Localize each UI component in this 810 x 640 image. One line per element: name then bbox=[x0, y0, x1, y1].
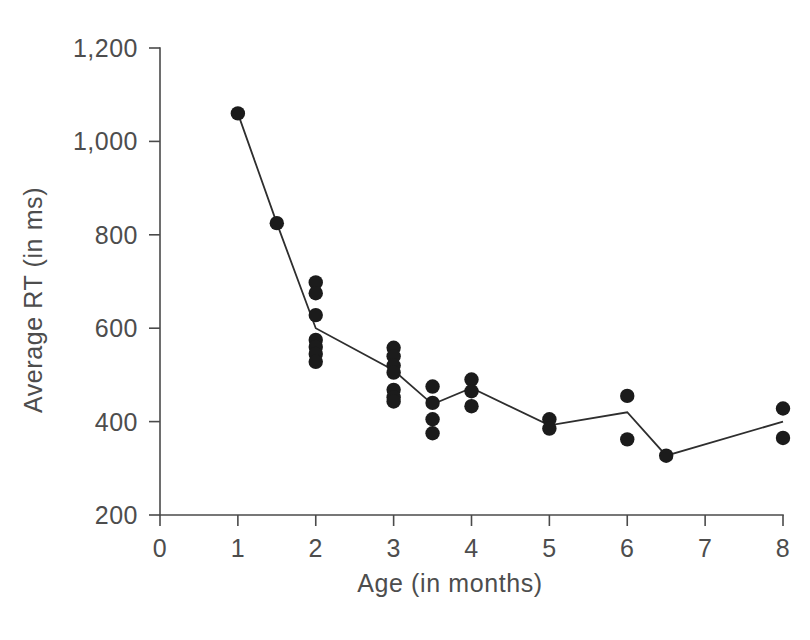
data-point bbox=[542, 421, 556, 435]
chart-figure: 2004006008001,0001,200 012345678 Age (in… bbox=[0, 0, 810, 640]
x-axis-tick-labels: 012345678 bbox=[153, 534, 790, 562]
data-point bbox=[425, 426, 439, 440]
data-point bbox=[270, 216, 284, 230]
data-point bbox=[309, 286, 323, 300]
data-point bbox=[386, 365, 400, 379]
x-tick-label-2: 2 bbox=[309, 534, 323, 562]
data-point-markers bbox=[231, 106, 791, 463]
data-point bbox=[309, 355, 323, 369]
x-tick-label-6: 6 bbox=[620, 534, 634, 562]
x-tick-label-8: 8 bbox=[776, 534, 790, 562]
y-tick-label-1000: 1,000 bbox=[73, 127, 138, 155]
x-tick-label-0: 0 bbox=[153, 534, 167, 562]
data-point bbox=[386, 394, 400, 408]
data-point bbox=[464, 384, 478, 398]
x-tick-label-7: 7 bbox=[698, 534, 712, 562]
data-point bbox=[425, 396, 439, 410]
y-tick-label-600: 600 bbox=[95, 314, 138, 342]
data-point bbox=[659, 448, 673, 462]
data-point bbox=[776, 401, 790, 415]
y-axis-ticks bbox=[149, 48, 160, 515]
x-axis-title: Age (in months) bbox=[357, 569, 542, 597]
data-point bbox=[776, 431, 790, 445]
x-tick-label-4: 4 bbox=[464, 534, 478, 562]
x-tick-label-1: 1 bbox=[231, 534, 245, 562]
x-tick-label-3: 3 bbox=[386, 534, 400, 562]
x-tick-label-5: 5 bbox=[542, 534, 556, 562]
y-axis-tick-labels: 2004006008001,0001,200 bbox=[73, 34, 138, 529]
data-point bbox=[425, 379, 439, 393]
y-tick-label-800: 800 bbox=[95, 221, 138, 249]
data-point bbox=[620, 389, 634, 403]
y-tick-label-200: 200 bbox=[95, 501, 138, 529]
data-point bbox=[464, 399, 478, 413]
scatter-line-plot: 2004006008001,0001,200 012345678 Age (in… bbox=[0, 0, 810, 640]
x-axis-ticks bbox=[160, 515, 783, 526]
data-point bbox=[620, 432, 634, 446]
y-tick-label-1200: 1,200 bbox=[73, 34, 138, 62]
data-point bbox=[309, 308, 323, 322]
data-point bbox=[231, 106, 245, 120]
y-axis-title: Average RT (in ms) bbox=[19, 187, 47, 413]
data-point bbox=[425, 412, 439, 426]
y-tick-label-400: 400 bbox=[95, 408, 138, 436]
axes-group bbox=[160, 48, 783, 515]
